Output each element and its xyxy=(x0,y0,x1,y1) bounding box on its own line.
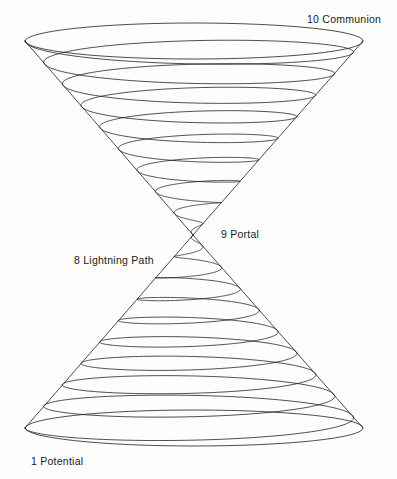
label-potential-text: 1 Potential xyxy=(31,455,83,467)
label-communion: 10 Communion xyxy=(307,14,381,25)
conical-spiral-figure xyxy=(0,0,397,479)
spiral-paths xyxy=(25,23,363,446)
spiral-stroke xyxy=(25,410,363,446)
label-communion-text: 10 Communion xyxy=(307,13,381,25)
label-portal-text: 9 Portal xyxy=(221,228,259,240)
label-portal: 9 Portal xyxy=(221,229,259,240)
spiral-stroke xyxy=(25,41,363,235)
label-potential: 1 Potential xyxy=(31,456,83,467)
spiral-stroke xyxy=(25,40,354,235)
label-lightning-path: 8 Lightning Path xyxy=(74,255,154,266)
label-lightning-path-text: 8 Lightning Path xyxy=(74,254,154,266)
figure-canvas: 10 Communion 9 Portal 8 Lightning Path 1… xyxy=(0,0,397,479)
